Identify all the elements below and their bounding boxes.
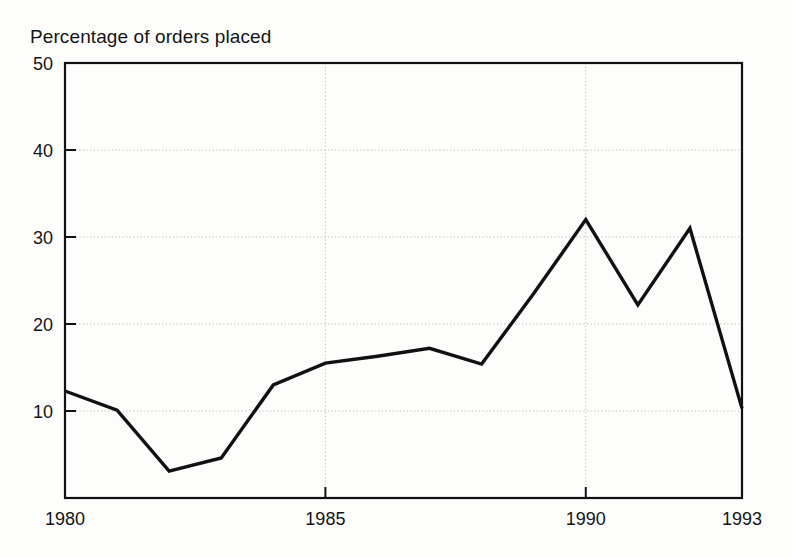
y-axis-tick-label: 10 — [33, 402, 53, 422]
data-series-group — [65, 220, 742, 471]
x-tick-marks-group — [325, 487, 585, 498]
y-tick-marks-group — [65, 150, 76, 411]
y-axis-tick-label: 30 — [33, 228, 53, 248]
x-axis-tick-labels: 1980198519901993 — [45, 509, 762, 529]
plot-area: 1020304050 1980198519901993 — [0, 0, 792, 558]
x-axis-tick-label: 1993 — [722, 509, 762, 529]
gridlines-group — [65, 63, 742, 498]
line-chart: Percentage of orders placed 1020304050 1… — [0, 0, 792, 558]
plot-border — [65, 63, 742, 498]
plot-frame — [65, 63, 742, 498]
data-line-series-1 — [65, 220, 742, 471]
y-axis-tick-label: 40 — [33, 141, 53, 161]
x-axis-tick-label: 1990 — [566, 509, 606, 529]
x-axis-tick-label: 1980 — [45, 509, 85, 529]
y-axis-tick-label: 20 — [33, 315, 53, 335]
x-axis-tick-label: 1985 — [305, 509, 345, 529]
y-axis-tick-labels: 1020304050 — [33, 54, 53, 422]
y-axis-tick-label: 50 — [33, 54, 53, 74]
